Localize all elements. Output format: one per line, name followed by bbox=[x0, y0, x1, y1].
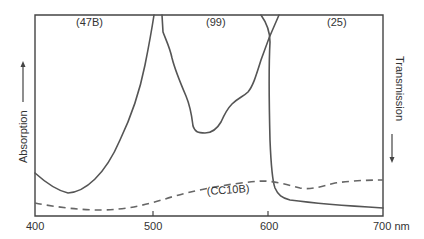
absorption-axis-label: Absorption bbox=[17, 61, 29, 163]
label-25: (25) bbox=[327, 16, 347, 28]
curve-99 bbox=[162, 15, 279, 133]
arrow-up-head-icon bbox=[21, 61, 26, 67]
tick-label-700: 700 nm bbox=[373, 220, 410, 232]
svg-text:Absorption: Absorption bbox=[17, 110, 29, 163]
arrow-down-head-icon bbox=[390, 157, 395, 163]
label-cc10b: (CC10B) bbox=[206, 182, 250, 197]
transmission-axis-label: Transmission bbox=[390, 56, 407, 163]
absorption-transmission-chart: (47B) (99) (25) (CC10B) Absorption Trans… bbox=[0, 0, 424, 239]
label-99: (99) bbox=[206, 16, 226, 28]
label-47b: (47B) bbox=[76, 16, 103, 28]
tick-label-600: 600 bbox=[260, 220, 278, 232]
svg-text:Transmission: Transmission bbox=[394, 56, 406, 121]
curve-25 bbox=[261, 15, 383, 208]
curve-47b bbox=[35, 15, 154, 193]
tick-label-400: 400 bbox=[26, 220, 44, 232]
tick-label-500: 500 bbox=[144, 220, 162, 232]
